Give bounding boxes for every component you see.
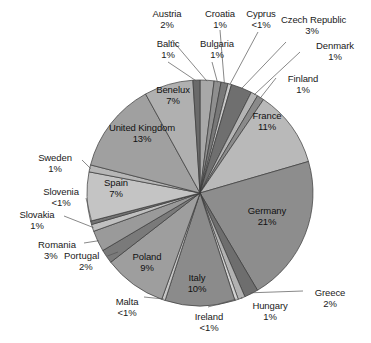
pie-label-czech-republic-name: Czech Republic	[281, 14, 367, 25]
pie-label-portugal-name: Portugal	[64, 250, 99, 261]
pie-label-baltic-name: Baltic	[148, 38, 188, 49]
pie-label-austria-name: Austria	[143, 8, 191, 19]
pie-label-czech-republic: Czech Republic 3%	[281, 14, 367, 36]
pie-label-germany-pct: 21%	[238, 216, 296, 227]
pie-label-romania-name: Romania	[38, 239, 76, 250]
leader-line-bulgaria	[212, 62, 218, 82]
pie-label-portugal-pct-wrap: 2%	[79, 261, 93, 272]
pie-label-italy: Italy 10%	[178, 272, 216, 294]
pie-label-benelux-pct: 7%	[148, 95, 198, 106]
pie-label-sweden-pct: 1%	[30, 163, 80, 174]
pie-label-sweden-name: Sweden	[30, 152, 80, 163]
pie-label-spain-pct: 7%	[95, 188, 137, 199]
pie-label-cyprus: Cyprus <1%	[240, 8, 282, 30]
pie-label-united-kingdom-pct: 13%	[100, 133, 184, 144]
pie-label-baltic-pct: 1%	[148, 49, 188, 60]
pie-label-malta: Malta <1%	[106, 296, 148, 318]
pie-label-hungary-name: Hungary	[245, 300, 295, 311]
pie-label-czech-republic-pct: 3%	[281, 25, 343, 36]
pie-label-italy-pct: 10%	[178, 283, 216, 294]
pie-label-bulgaria: Bulgaria 1%	[192, 38, 242, 60]
pie-label-bulgaria-name: Bulgaria	[192, 38, 242, 49]
pie-label-ireland: Ireland <1%	[186, 311, 232, 333]
pie-label-bulgaria-pct: 1%	[192, 49, 242, 60]
pie-label-slovenia: Slovenia <1%	[33, 186, 89, 208]
pie-label-romania-pct-wrap: 3%	[44, 250, 58, 261]
pie-label-slovakia-pct: 1%	[10, 220, 64, 231]
leader-line-greece	[251, 291, 303, 293]
pie-label-denmark-name: Denmark	[305, 40, 365, 51]
pie-label-germany: Germany 21%	[238, 205, 296, 227]
pie-label-hungary-pct: 1%	[245, 311, 295, 322]
pie-label-slovenia-pct: <1%	[33, 197, 89, 208]
pie-label-austria: Austria 2%	[143, 8, 191, 30]
pie-label-denmark-pct: 1%	[305, 51, 365, 62]
leader-line-sweden	[82, 160, 91, 169]
pie-label-slovakia: Slovakia 1%	[10, 209, 64, 231]
pie-label-portugal: Portugal	[64, 250, 99, 261]
pie-label-malta-pct: <1%	[106, 307, 148, 318]
pie-label-ireland-pct: <1%	[186, 322, 232, 333]
pie-label-germany-name: Germany	[238, 205, 296, 216]
pie-label-croatia-name: Croatia	[198, 8, 242, 19]
pie-label-finland-pct: 1%	[279, 84, 327, 95]
pie-label-united-kingdom-name: United Kingdom	[100, 122, 184, 133]
pie-label-slovakia-name: Slovakia	[10, 209, 64, 220]
pie-label-poland-pct: 9%	[125, 262, 169, 273]
pie-label-france-name: France	[243, 110, 291, 121]
pie-label-cyprus-pct: <1%	[240, 19, 282, 30]
leader-line-baltic	[168, 62, 197, 81]
pie-label-greece-name: Greece	[306, 287, 354, 298]
pie-label-benelux: Benelux 7%	[148, 84, 198, 106]
pie-label-poland: Poland 9%	[125, 251, 169, 273]
pie-label-poland-name: Poland	[125, 251, 169, 262]
pie-label-romania-pct: 3%	[44, 250, 58, 261]
pie-label-ireland-name: Ireland	[186, 311, 232, 322]
pie-label-romania: Romania	[38, 239, 76, 250]
pie-label-croatia-pct: 1%	[198, 19, 242, 30]
pie-label-austria-pct: 2%	[143, 19, 191, 30]
pie-label-greece: Greece 2%	[306, 287, 354, 309]
pie-label-portugal-pct: 2%	[79, 261, 93, 272]
pie-label-united-kingdom: United Kingdom 13%	[100, 122, 184, 144]
pie-label-denmark: Denmark 1%	[305, 40, 365, 62]
pie-label-baltic: Baltic 1%	[148, 38, 188, 60]
pie-chart-figure: Austria 2% Croatia 1% Cyprus <1% Czech R…	[0, 0, 371, 343]
pie-label-malta-name: Malta	[106, 296, 148, 307]
pie-label-sweden: Sweden 1%	[30, 152, 80, 174]
pie-label-spain: Spain 7%	[95, 177, 137, 199]
leader-line-slovakia	[64, 216, 94, 228]
pie-label-cyprus-name: Cyprus	[240, 8, 282, 19]
pie-label-finland: Finland 1%	[279, 73, 327, 95]
leader-line-romania	[84, 241, 99, 243]
pie-label-hungary: Hungary 1%	[245, 300, 295, 322]
pie-label-croatia: Croatia 1%	[198, 8, 242, 30]
pie-label-slovenia-name: Slovenia	[33, 186, 89, 197]
pie-label-finland-name: Finland	[279, 73, 327, 84]
pie-label-greece-pct: 2%	[306, 298, 354, 309]
pie-label-italy-name: Italy	[178, 272, 216, 283]
leader-line-finland	[260, 78, 276, 98]
pie-label-france: France 11%	[243, 110, 291, 132]
pie-label-benelux-name: Benelux	[148, 84, 198, 95]
pie-label-france-pct: 11%	[243, 121, 291, 132]
pie-label-spain-name: Spain	[95, 177, 137, 188]
